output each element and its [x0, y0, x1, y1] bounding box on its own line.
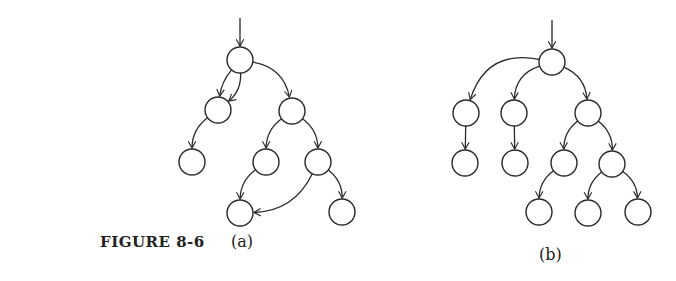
edge-n1-to-n2-parallel — [229, 73, 241, 101]
edge-n1-to-n2 — [220, 70, 232, 96]
edge-n1-to-n3 — [253, 62, 290, 97]
node-m2 — [453, 100, 479, 126]
node-n3 — [279, 98, 305, 124]
node-n1 — [227, 47, 253, 73]
node-m7 — [551, 150, 577, 176]
node-m4 — [575, 100, 601, 126]
node-n4 — [179, 149, 205, 175]
edge-m1-to-m2 — [470, 58, 539, 100]
edge-m1-to-m4 — [564, 67, 587, 99]
node-n6 — [305, 149, 331, 175]
caption-a: (a) — [231, 232, 253, 251]
edge-n6-to-n7 — [254, 174, 312, 213]
node-m6 — [502, 150, 528, 176]
edge-n5-to-n7 — [240, 170, 255, 199]
node-n5 — [253, 149, 279, 175]
graph-panel-b — [452, 20, 651, 226]
edge-m8-to-m10 — [588, 172, 602, 199]
node-m11 — [625, 199, 651, 225]
node-m9 — [526, 199, 552, 225]
node-n8 — [329, 199, 355, 225]
edge-n3-to-n5 — [266, 119, 281, 148]
edge-m1-to-m3 — [514, 66, 539, 99]
figure-canvas: FIGURE 8-6 (a) (b) — [0, 0, 676, 281]
node-m5 — [452, 150, 478, 176]
edge-n3-to-n6 — [303, 119, 318, 148]
edge-m4-to-m8 — [598, 121, 612, 150]
caption-b: (b) — [539, 245, 562, 264]
node-m10 — [575, 200, 601, 226]
edge-m4-to-m7 — [564, 121, 578, 149]
edge-m7-to-m9 — [539, 171, 553, 198]
node-n2 — [205, 97, 231, 123]
edge-n6-to-n8 — [328, 170, 342, 198]
figure-label: FIGURE 8-6 — [100, 233, 205, 251]
edge-n2-to-n4 — [192, 118, 208, 148]
node-m3 — [501, 100, 527, 126]
node-m1 — [539, 49, 565, 75]
node-n7 — [227, 200, 253, 226]
node-m8 — [599, 151, 625, 177]
graph-panel-a — [179, 18, 355, 226]
edge-m8-to-m11 — [623, 172, 638, 199]
